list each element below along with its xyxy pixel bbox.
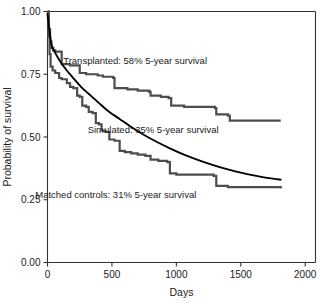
plot-frame [48, 12, 316, 263]
x-axis-ticks: 0500100015002000 [45, 263, 317, 280]
y-tick-label: 0.50 [21, 132, 41, 143]
axes-frame [48, 12, 316, 263]
y-tick-label: 0.75 [21, 69, 41, 80]
annotation-transplanted: Transplanted: 58% 5-year survival [63, 55, 207, 66]
x-axis-title: Days [170, 286, 194, 298]
y-axis-title: Probability of survival [1, 87, 13, 186]
survival-curve-figure: 0500100015002000 0.000.250.500.751.00 Tr… [0, 0, 330, 304]
y-tick-label: 1.00 [21, 6, 41, 17]
x-tick-label: 2000 [294, 269, 317, 280]
series-curve-matched-controls [48, 12, 281, 189]
annotation-matched-controls: Matched controls: 31% 5-year survival [35, 189, 196, 200]
x-tick-label: 1500 [230, 269, 253, 280]
x-tick-label: 500 [104, 269, 121, 280]
x-tick-label: 1000 [165, 269, 188, 280]
data-series-group [48, 12, 281, 189]
y-tick-label: 0.00 [21, 257, 41, 268]
annotation-simulated: Simulated: 35% 5-year survival [88, 124, 219, 135]
x-tick-label: 0 [45, 269, 51, 280]
chart-canvas: 0500100015002000 0.000.250.500.751.00 Tr… [0, 0, 330, 304]
y-axis-ticks: 0.000.250.500.751.00 [21, 6, 47, 268]
